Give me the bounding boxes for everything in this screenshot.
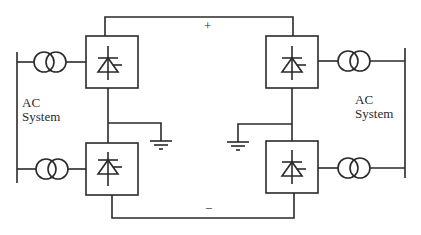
right-ac-label-line1: AC xyxy=(355,93,393,107)
right-ground-tap xyxy=(238,124,292,142)
left-ac-label-line1: AC xyxy=(22,96,60,110)
converter-left-lower xyxy=(86,143,138,195)
thyristor-icon xyxy=(282,46,306,80)
left-ac-label-line2: System xyxy=(22,110,60,124)
ground-icon xyxy=(150,141,172,149)
transformer-icon xyxy=(318,158,405,178)
thyristor-icon xyxy=(98,152,122,186)
thyristor-icon xyxy=(98,46,122,80)
right-ac-label-line2: System xyxy=(355,107,393,121)
dc-positive-label: + xyxy=(204,18,211,34)
dc-negative-label: − xyxy=(205,201,212,217)
ground-icon xyxy=(227,142,249,150)
hvdc-diagram: + − AC System AC System xyxy=(0,0,421,235)
left-ac-system-label: AC System xyxy=(22,96,60,124)
right-ac-system-label: AC System xyxy=(355,93,393,121)
left-ground-tap xyxy=(108,123,161,141)
dc-negative-line xyxy=(112,193,294,218)
converter-left-upper xyxy=(86,36,138,88)
transformer-icon xyxy=(17,52,86,72)
thyristor-icon xyxy=(282,150,306,184)
dc-positive-line xyxy=(105,17,293,36)
transformer-icon xyxy=(318,51,405,71)
transformer-icon xyxy=(17,159,86,179)
